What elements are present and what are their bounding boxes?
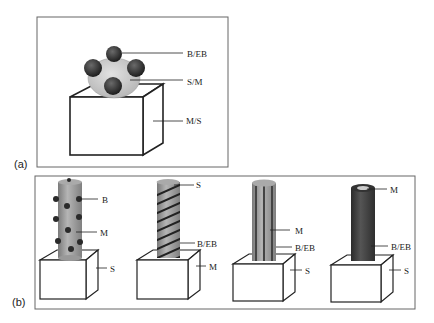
callout-b3-1: M xyxy=(295,226,303,236)
callout-a-bottom: M/S xyxy=(186,116,202,126)
callout-b2-3: M xyxy=(209,262,217,272)
callout-b1-3: S xyxy=(110,264,115,274)
panel-a: (a) B/EB S/M M/S xyxy=(14,17,228,170)
structure-3: M B/EB S xyxy=(233,180,315,302)
ball-front xyxy=(104,77,122,95)
callout-b4-1: M xyxy=(390,185,398,195)
callout-b1-2: M xyxy=(100,228,108,238)
callout-b4-3: S xyxy=(404,266,409,276)
callout-b2-2: B/EB xyxy=(197,239,217,249)
figure: (a) B/EB S/M M/S (b) xyxy=(0,0,434,323)
callout-b3-2: B/EB xyxy=(295,243,315,253)
callout-b4-2: B/EB xyxy=(391,242,411,252)
callout-a-middle: S/M xyxy=(187,77,203,87)
callout-b2-1: S xyxy=(196,180,201,190)
structure-4: M B/EB S xyxy=(331,184,411,302)
callout-a-top: B/EB xyxy=(187,49,207,59)
panel-a-label: (a) xyxy=(14,158,27,170)
callout-b1-1: B xyxy=(102,195,108,205)
structure-1: B M S xyxy=(40,178,115,299)
panel-b: (b) B M S xyxy=(12,176,415,309)
ball-left xyxy=(84,59,102,77)
callout-b3-3: S xyxy=(305,266,310,276)
panel-b-label: (b) xyxy=(12,296,25,308)
ball-top xyxy=(106,46,122,62)
ball-right xyxy=(127,59,145,77)
structure-2: S B/EB M xyxy=(137,179,217,299)
